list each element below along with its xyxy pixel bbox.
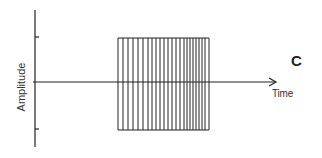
x-axis-time-arrow: [33, 78, 276, 86]
y-axis-label: Amplitude: [15, 63, 27, 112]
amplitude-block: [118, 38, 209, 130]
amplitude-time-plot: [0, 0, 322, 158]
x-axis-label: Time: [272, 88, 293, 99]
y-axis: [35, 10, 39, 147]
signal-diagram: Amplitude Time C: [0, 0, 322, 158]
panel-label: C: [291, 52, 302, 69]
